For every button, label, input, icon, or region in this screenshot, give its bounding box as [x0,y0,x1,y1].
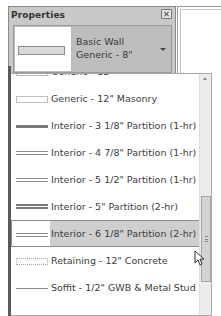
item-label: Interior - 5" Partition (2-hr) [51,201,178,212]
type-name: Generic - 8" [76,49,133,60]
drawing-area [177,6,221,74]
mouse-cursor-icon [194,250,204,266]
panel-left-edge [8,66,11,316]
close-icon[interactable] [161,9,172,19]
wall-swatch-icon [16,96,48,103]
list-item[interactable]: Generic - 12" [11,73,200,85]
list-item[interactable]: Interior - 3 1/8" Partition (1-hr) [11,112,200,139]
panel-title: Properties [11,10,65,20]
type-preview [15,27,71,71]
list-item-selected[interactable]: Interior - 6 1/8" Partition (2-hr) [11,220,200,247]
scroll-thumb[interactable] [201,196,211,282]
wall-swatch-icon [16,178,48,182]
wall-swatch-icon [16,258,48,265]
item-label: Retaining - 12" Concrete [51,255,168,266]
wall-swatch-icon [16,204,48,209]
wall-swatch-icon [18,46,65,55]
dropdown-arrow-icon[interactable] [160,48,166,51]
wall-swatch-icon [16,233,48,237]
list-item[interactable]: Interior - 5 1/2" Partition (1-hr) [11,166,200,193]
scrollbar[interactable] [199,74,211,315]
item-label: Interior - 4 7/8" Partition (1-hr) [51,147,196,158]
list-item[interactable]: Interior - 5" Partition (2-hr) [11,193,200,220]
type-dropdown-list[interactable]: Generic - 12" Generic - 12" Masonry Inte… [9,73,212,316]
type-selector[interactable]: Basic Wall Generic - 8" [13,25,172,73]
type-family: Basic Wall [76,36,124,47]
scroll-up-icon[interactable] [203,77,207,80]
list-item[interactable]: Generic - 12" Masonry [11,85,200,112]
item-label: Interior - 3 1/8" Partition (1-hr) [51,120,196,131]
item-label: Generic - 12" [51,73,114,77]
wall-swatch-icon [16,125,48,128]
wall-swatch-icon [16,288,48,289]
list-item[interactable]: Soffit - 1/2" GWB & Metal Stud [11,274,200,301]
grip-icon [205,236,208,242]
wall-swatch-icon [16,151,48,155]
item-label: Interior - 5 1/2" Partition (1-hr) [51,174,196,185]
item-label: Generic - 12" Masonry [51,93,157,104]
item-label: Soffit - 1/2" GWB & Metal Stud [51,282,196,293]
item-label: Interior - 6 1/8" Partition (2-hr) [51,228,196,239]
list-item[interactable]: Interior - 4 7/8" Partition (1-hr) [11,139,200,166]
list-item[interactable]: Retaining - 12" Concrete [11,247,200,274]
wall-swatch-icon [16,73,48,76]
